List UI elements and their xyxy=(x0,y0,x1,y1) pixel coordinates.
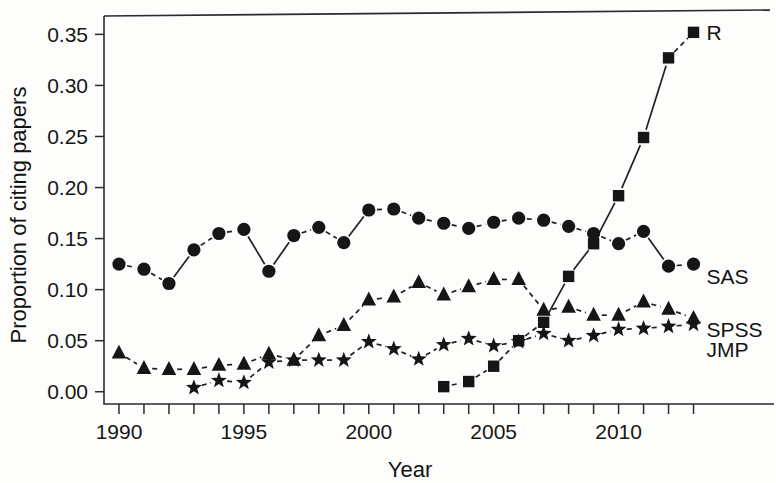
data-point-star xyxy=(586,327,602,342)
data-point-triangle xyxy=(162,361,177,375)
data-point-square xyxy=(563,271,574,282)
data-point-star xyxy=(636,320,652,335)
data-point-triangle xyxy=(511,271,526,285)
x-tick-label: 2000 xyxy=(345,420,392,443)
series-segment xyxy=(427,220,436,222)
series-segment xyxy=(552,336,561,339)
series-segment xyxy=(597,203,614,236)
data-point-circle xyxy=(187,243,200,256)
series-segment xyxy=(349,217,364,237)
axes-group: 0.000.050.100.150.200.250.300.3519901995… xyxy=(47,10,774,443)
series-segment xyxy=(227,381,236,382)
series-segment xyxy=(151,273,162,279)
series-segment xyxy=(677,265,686,266)
series-segment xyxy=(476,371,487,378)
series-segment xyxy=(676,312,686,316)
series-segment xyxy=(201,238,212,245)
data-point-square xyxy=(613,190,624,201)
data-point-star xyxy=(211,372,227,387)
series-segment xyxy=(502,219,511,220)
y-tick-label: 0.35 xyxy=(47,23,88,46)
series-segment xyxy=(525,327,537,336)
series-segment xyxy=(251,357,261,361)
series-segment xyxy=(499,347,513,361)
series-segment xyxy=(477,282,486,285)
series-segment xyxy=(401,287,412,293)
series-segment xyxy=(452,383,461,385)
series-segment xyxy=(126,357,137,364)
series-segment xyxy=(202,367,211,368)
y-tick-label: 0.30 xyxy=(47,74,88,97)
series-segment xyxy=(651,304,660,307)
y-tick-label: 0.25 xyxy=(47,125,88,148)
data-point-star xyxy=(686,316,702,331)
data-point-triangle xyxy=(312,327,327,341)
series-segment xyxy=(274,242,290,264)
series-segment xyxy=(350,347,362,356)
series-segment xyxy=(524,286,539,304)
series-segment xyxy=(452,341,461,343)
data-point-star xyxy=(386,340,402,355)
series-segment xyxy=(377,344,386,347)
y-axis-title: Proportion of citing papers xyxy=(6,87,31,344)
data-point-square xyxy=(663,52,674,63)
data-point-triangle xyxy=(561,299,576,313)
series-label-sas: SAS xyxy=(707,265,749,288)
data-point-triangle xyxy=(212,357,227,371)
series-segment xyxy=(648,238,663,259)
series-segment xyxy=(477,224,486,226)
series-segment xyxy=(574,250,589,270)
data-point-circle xyxy=(537,214,550,227)
series-segment xyxy=(477,341,486,344)
data-point-circle xyxy=(462,222,475,235)
plot-top-border xyxy=(104,10,770,16)
series-segment xyxy=(326,328,336,332)
data-point-circle xyxy=(337,236,350,249)
series-segment xyxy=(602,331,611,333)
data-point-circle xyxy=(162,277,175,290)
data-point-circle xyxy=(437,217,450,230)
data-point-triangle xyxy=(661,301,676,315)
y-tick-label: 0.00 xyxy=(47,380,88,403)
data-point-star xyxy=(611,321,627,336)
series-segment xyxy=(248,236,265,264)
x-tick-label: 1995 xyxy=(221,420,268,443)
series-segment xyxy=(577,229,586,232)
chart-canvas: 0.000.050.100.150.200.250.300.3519901995… xyxy=(0,0,776,483)
series-segment xyxy=(577,337,586,339)
series-segment xyxy=(401,352,411,356)
data-point-star xyxy=(361,333,377,348)
data-point-star xyxy=(261,354,277,369)
data-point-circle xyxy=(362,203,375,216)
data-point-circle xyxy=(662,260,675,273)
data-point-circle xyxy=(637,225,650,238)
series-segment xyxy=(452,225,461,227)
series-segment xyxy=(552,222,561,224)
data-point-triangle xyxy=(112,345,127,359)
series-label-r: R xyxy=(707,21,722,44)
series-segment xyxy=(626,235,636,240)
data-point-triangle xyxy=(536,302,551,316)
data-point-circle xyxy=(487,216,500,229)
data-point-circle xyxy=(287,229,300,242)
data-point-square xyxy=(488,361,499,372)
series-segment xyxy=(300,341,313,354)
series-segment xyxy=(626,306,636,312)
series-segment xyxy=(377,298,386,299)
data-point-star xyxy=(336,352,352,367)
series-segment xyxy=(502,343,511,344)
series-segment xyxy=(250,367,262,377)
data-point-circle xyxy=(112,258,125,271)
data-point-star xyxy=(186,379,202,394)
series-segment xyxy=(426,286,436,291)
data-point-star xyxy=(486,337,502,352)
data-point-star xyxy=(436,336,452,351)
data-point-circle xyxy=(237,223,250,236)
series-segment xyxy=(302,230,311,233)
series-segment xyxy=(326,232,337,239)
data-point-circle xyxy=(412,212,425,225)
figure-container: 0.000.050.100.150.200.250.300.3519901995… xyxy=(0,0,776,483)
series-group xyxy=(112,27,702,395)
series-segment xyxy=(576,310,585,313)
series-label-jmp: JMP xyxy=(707,338,749,361)
